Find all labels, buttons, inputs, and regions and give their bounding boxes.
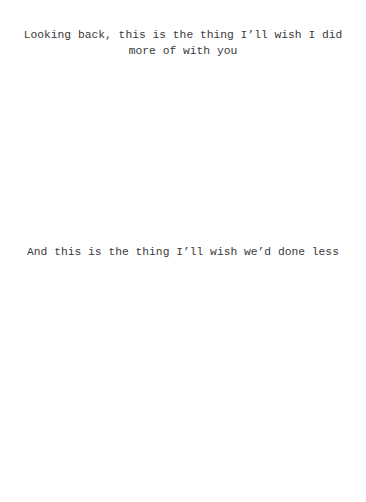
top-caption: Looking back, this is the thing I’ll wis…	[0, 27, 366, 59]
bottom-caption: And this is the thing I’ll wish we’d don…	[0, 244, 366, 260]
